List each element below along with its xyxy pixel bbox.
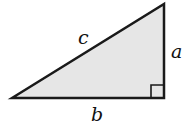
label-leg-a: a [171, 40, 182, 62]
label-leg-b: b [91, 103, 103, 125]
right-triangle-diagram: c a b [0, 0, 188, 129]
label-hypotenuse-c: c [78, 26, 89, 48]
triangle-shape [12, 4, 164, 98]
